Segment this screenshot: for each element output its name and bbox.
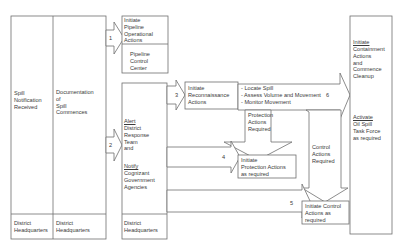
arrow-5-label: 5 <box>290 200 293 206</box>
pipeline-control-center: Pipeline Control Center <box>130 51 150 71</box>
arrow-3-label: 3 <box>175 92 178 98</box>
control-text: Initiate Control Actions as required <box>305 203 341 223</box>
reconnaissance-text: Initiate Reconnaissance Actions <box>188 85 229 105</box>
arrow-1-label: 1 <box>109 35 112 41</box>
arrow-6-label: 6 <box>326 92 329 98</box>
left-box <box>11 16 106 239</box>
arrow-4 <box>167 141 240 173</box>
arrow-4-label: 4 <box>222 154 225 160</box>
arrow-2-label: 2 <box>109 142 112 148</box>
oil-spill-response-flowchart: Spill Notification Received District Hea… <box>0 0 400 244</box>
alert-title: Alert <box>124 118 136 125</box>
spill-notification-footer: District Headquarters <box>14 220 48 234</box>
task-force-text: Oil Spill Task Force as required <box>353 121 381 141</box>
control-required-label: Control Actions Required <box>312 144 335 164</box>
notify-title: Notify <box>124 163 138 170</box>
protection-required-label: Protection Actions Required <box>248 112 273 132</box>
spill-notification-text: Spill Notification Received <box>14 90 42 110</box>
alert-text: District Response Team and <box>124 125 149 152</box>
task-force-title: Activate <box>353 114 373 121</box>
notify-text: Cognizant Government Agencies <box>124 170 155 190</box>
containment-title: Initiate <box>353 39 369 46</box>
pipeline-title: Initiate Pipeline Operational Actions <box>124 17 153 44</box>
alert-footer: District Headquarters <box>124 220 158 234</box>
documentation-footer: District Headquarters <box>56 220 90 234</box>
containment-text: Containment Actions and Commence Cleanup <box>353 46 385 80</box>
protection-text: Initiate Protection Actions as required <box>241 157 286 177</box>
recon-tasks-text: - Locate Spill - Assess Volume and Movem… <box>241 85 321 105</box>
documentation-text: Documentation of Spill Commences <box>56 89 94 116</box>
alert-box <box>122 83 167 239</box>
